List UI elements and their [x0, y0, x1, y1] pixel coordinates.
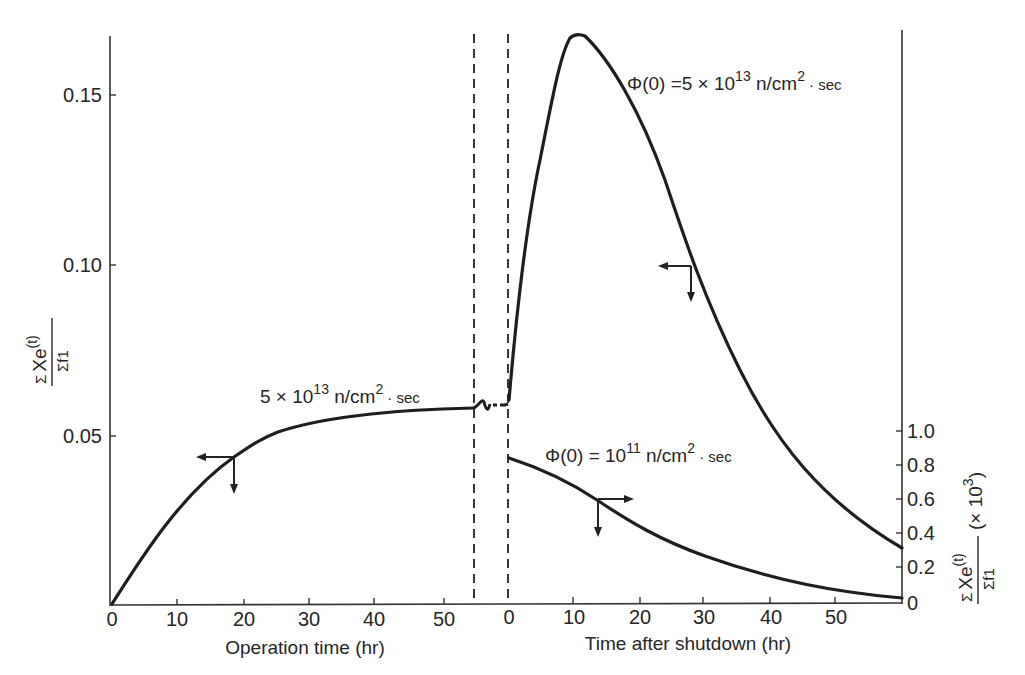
- svg-text:Σf1: Σf1: [980, 568, 997, 590]
- y-left-tick-label: 0.10: [63, 254, 102, 276]
- y-right-tick-label: 0.6: [907, 488, 935, 510]
- x-op-tick-label: 20: [233, 608, 255, 630]
- x-ticks-operation: 0 10 20 30 40 50 Operation time (hr): [106, 598, 455, 658]
- svg-text:ΣXe(t): ΣXe(t): [24, 335, 50, 384]
- y-axis-title-right: ΣXe(t) Σf1 (× 103): [950, 472, 997, 604]
- curve-shutdown-1e11: [509, 458, 902, 598]
- svg-text:Σf1: Σf1: [54, 350, 71, 372]
- y-right-tick-label: 0.2: [907, 556, 935, 578]
- svg-text:(× 103): (× 103): [960, 472, 986, 530]
- y-axis-title-left: ΣXe(t) Σf1: [24, 318, 71, 386]
- axis-indicator-high-flux: [658, 262, 695, 302]
- x-op-tick-label: 50: [433, 608, 455, 630]
- left-y-ticks: 0.15 0.10 0.05: [63, 84, 116, 447]
- x-sd-tick-label: 30: [693, 606, 715, 628]
- x-axis: [110, 603, 902, 605]
- y-right-tick-label: 0: [907, 592, 918, 614]
- y-right-tick-label: 0.8: [907, 454, 935, 476]
- x-op-tick-label: 10: [166, 608, 188, 630]
- x-sd-tick-label: 10: [563, 606, 585, 628]
- y-left-tick-label: 0.15: [63, 84, 102, 106]
- x-ticks-shutdown: 0 10 20 30 40 50 Time after shutdown (hr…: [503, 597, 847, 654]
- curve-operation-5e13: [112, 408, 474, 604]
- x-axis-title-shutdown: Time after shutdown (hr): [585, 633, 791, 654]
- y-right-tick-label: 0.4: [907, 522, 935, 544]
- axis-break-squiggle: [474, 401, 508, 409]
- x-axis-title-operation: Operation time (hr): [225, 637, 384, 658]
- x-sd-tick-label: 50: [825, 606, 847, 628]
- annotation-low-flux: Φ(0) = 1011 n/cm2 · sec: [545, 440, 732, 466]
- x-op-tick-label: 0: [106, 608, 117, 630]
- xenon-poisoning-chart: 0.15 0.10 0.05 1.0 0.8 0.6 0.4 0.2 0 0 1…: [0, 0, 1025, 675]
- annotation-high-flux: Φ(0) =5 × 1013 n/cm2 · sec: [627, 68, 842, 94]
- curve-shutdown-5e13: [509, 35, 902, 548]
- annotation-operation-flux: 5 × 1013 n/cm2 · sec: [260, 381, 420, 407]
- y-left-tick-label: 0.05: [63, 425, 102, 447]
- x-sd-tick-label: 0: [503, 606, 514, 628]
- y-right-tick-label: 1.0: [907, 420, 935, 442]
- x-sd-tick-label: 40: [760, 606, 782, 628]
- x-op-tick-label: 30: [298, 608, 320, 630]
- x-op-tick-label: 40: [363, 608, 385, 630]
- axes: [110, 30, 902, 606]
- x-sd-tick-label: 20: [629, 606, 651, 628]
- svg-text:ΣXe(t): ΣXe(t): [950, 553, 976, 602]
